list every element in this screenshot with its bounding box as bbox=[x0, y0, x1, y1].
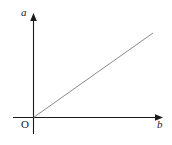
data-line-series-1 bbox=[34, 33, 154, 118]
origin-label: O bbox=[21, 119, 29, 130]
x-axis-label: b bbox=[157, 119, 163, 130]
graph-figure: a b O bbox=[0, 0, 172, 145]
y-axis-label: a bbox=[21, 7, 27, 18]
vertical-axis-arrowhead bbox=[30, 13, 37, 21]
